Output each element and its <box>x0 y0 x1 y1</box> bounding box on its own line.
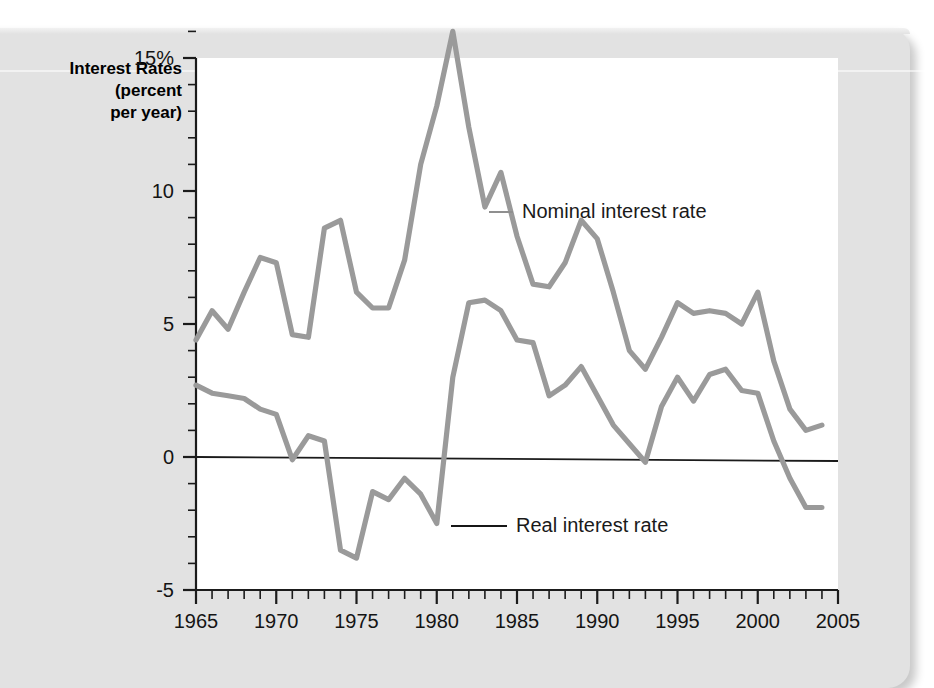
y-axis-tick-labels: 15%1050-5 <box>134 47 174 601</box>
svg-text:0: 0 <box>163 446 174 468</box>
y-axis-ticks <box>183 31 196 590</box>
x-axis-ticks <box>196 590 838 604</box>
legend-label-real: Real interest rate <box>516 514 668 537</box>
legend-line-marker-nominal <box>489 211 513 213</box>
svg-text:1970: 1970 <box>254 610 299 632</box>
svg-text:2005: 2005 <box>816 610 861 632</box>
svg-text:5: 5 <box>163 313 174 335</box>
svg-text:1990: 1990 <box>575 610 620 632</box>
x-axis-tick-labels: 196519701975198019851990199520002005 <box>174 610 861 632</box>
svg-text:1995: 1995 <box>655 610 700 632</box>
legend-label-nominal: Nominal interest rate <box>522 200 707 223</box>
legend-real-interest-rate: Real interest rate <box>451 514 668 537</box>
legend-nominal-interest-rate: Nominal interest rate <box>489 200 707 223</box>
svg-text:1980: 1980 <box>415 610 460 632</box>
svg-text:15%: 15% <box>134 47 174 69</box>
svg-text:1965: 1965 <box>174 610 219 632</box>
svg-text:1975: 1975 <box>334 610 379 632</box>
svg-text:-5: -5 <box>156 579 174 601</box>
svg-text:1985: 1985 <box>495 610 540 632</box>
svg-text:10: 10 <box>152 180 174 202</box>
svg-text:2000: 2000 <box>736 610 781 632</box>
series-lines <box>196 31 822 558</box>
legend-line-marker-real <box>451 525 507 527</box>
